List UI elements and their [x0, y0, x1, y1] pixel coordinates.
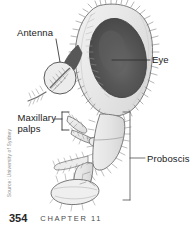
antenna-shaft-outer: [28, 86, 46, 106]
source-credit: Source: University of Sydney: [6, 127, 12, 199]
figure-container: Antenna Eye Maxillary palps Proboscis So…: [0, 0, 193, 228]
page-footer: 354 CHAPTER 11: [0, 208, 193, 228]
labella: [50, 178, 100, 206]
antenna-leader-line: [56, 39, 60, 62]
chapter-label: CHAPTER 11: [40, 214, 102, 223]
proboscis-bracket: [123, 112, 145, 200]
label-eye: Eye: [152, 54, 169, 65]
head-group: [69, 0, 159, 122]
label-maxillary-line1: Maxillary: [18, 112, 56, 123]
antenna-inset: [44, 62, 76, 94]
label-antenna: Antenna: [17, 27, 53, 38]
label-proboscis: Proboscis: [147, 153, 190, 164]
page-number: 354: [9, 212, 27, 224]
